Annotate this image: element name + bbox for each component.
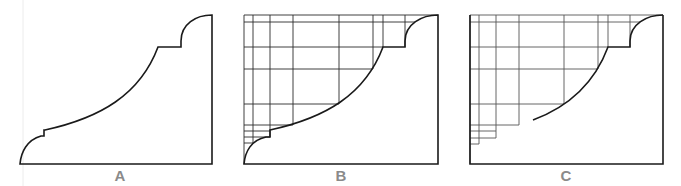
panel-a-label: A (115, 167, 126, 184)
panel-b-label: B (336, 167, 347, 184)
panel-c-frame-outline (470, 15, 663, 164)
panel-b-construction-grid (244, 15, 438, 164)
panel-a-profile-outline (20, 15, 212, 164)
panel-c-construction-grid (470, 15, 663, 164)
panel-a: A (20, 15, 212, 184)
panel-c: C (470, 15, 663, 184)
panel-b: B (244, 15, 438, 184)
molding-profile-diagram: A B (0, 0, 681, 186)
panel-b-profile-outline (244, 15, 438, 164)
panel-c-label: C (561, 167, 572, 184)
